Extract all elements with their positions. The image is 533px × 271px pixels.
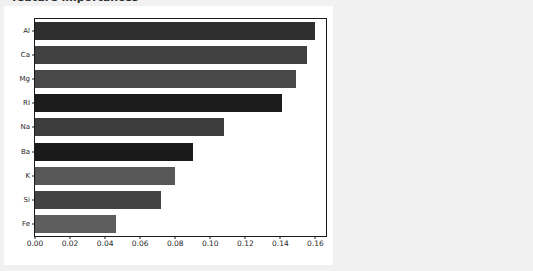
y-tick-label: Ba [21, 148, 30, 155]
bar [35, 118, 224, 136]
x-tick-label: 0.02 [62, 240, 79, 248]
bar-row: Al [35, 19, 326, 43]
bar-row: K [35, 164, 326, 188]
bar [35, 70, 296, 88]
chart-axes: AlCaMgRINaBaKSiFe 0.000.020.040.060.080.… [34, 18, 327, 237]
x-tick-label: 0.10 [202, 240, 219, 248]
bar [35, 143, 193, 161]
figure-canvas: AlCaMgRINaBaKSiFe 0.000.020.040.060.080.… [4, 6, 333, 265]
bar [35, 22, 315, 40]
y-tick-label: Mg [20, 76, 30, 83]
screenshot-root: feature importances AlCaMgRINaBaKSiFe 0.… [0, 0, 533, 271]
bar [35, 215, 116, 233]
y-tick-label: RI [23, 100, 30, 107]
bar-row: RI [35, 91, 326, 115]
bar-row: Mg [35, 67, 326, 91]
x-tick-label: 0.12 [237, 240, 254, 248]
x-tick-label: 0.16 [307, 240, 324, 248]
bar [35, 94, 282, 112]
bar [35, 46, 307, 64]
bar-plot-area: AlCaMgRINaBaKSiFe [35, 19, 326, 236]
bar-row: Ba [35, 140, 326, 164]
y-tick-label: Si [24, 196, 30, 203]
x-tick-label: 0.06 [132, 240, 149, 248]
clipped-title: feature importances [12, 0, 152, 3]
bar-row: Fe [35, 212, 326, 236]
x-tick-label: 0.14 [272, 240, 289, 248]
x-tick-label: 0.04 [97, 240, 114, 248]
bar [35, 167, 175, 185]
x-tick-label: 0.00 [27, 240, 44, 248]
bar-row: Ca [35, 43, 326, 67]
y-tick-label: Na [20, 124, 30, 131]
bar-row: Na [35, 115, 326, 139]
y-tick-label: Fe [22, 220, 30, 227]
x-tick-label: 0.08 [167, 240, 184, 248]
y-tick-label: K [25, 172, 30, 179]
bar-row: Si [35, 188, 326, 212]
y-tick-label: Al [23, 28, 30, 35]
bar [35, 191, 161, 209]
y-tick-label: Ca [21, 52, 30, 59]
